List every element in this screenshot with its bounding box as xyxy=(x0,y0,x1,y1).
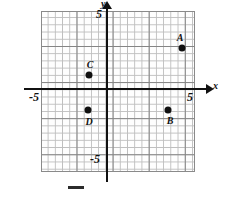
data-point-d-label: D xyxy=(85,116,92,127)
coordinate-plane-figure: x y -5 5 5 -5 A B C D xyxy=(0,0,229,197)
y-axis-tick-positive-five: 5 xyxy=(96,7,102,22)
x-axis-label: x xyxy=(213,80,218,91)
data-point-c-label: C xyxy=(87,59,94,70)
data-point-b xyxy=(165,107,172,114)
stray-dash-mark xyxy=(68,186,84,189)
y-axis-tick-negative-five: -5 xyxy=(90,152,100,167)
data-point-b-label: B xyxy=(167,115,174,126)
data-point-a-label: A xyxy=(177,32,184,43)
x-axis-line xyxy=(24,88,208,90)
data-point-c xyxy=(86,72,93,79)
graph-grid xyxy=(41,11,195,172)
data-point-d xyxy=(85,107,92,114)
x-axis-tick-positive-five: 5 xyxy=(187,90,193,105)
y-axis-line xyxy=(106,4,108,182)
x-axis-tick-negative-five: -5 xyxy=(29,90,39,105)
data-point-a xyxy=(179,45,186,52)
